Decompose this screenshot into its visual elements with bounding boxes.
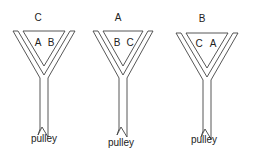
- inner-left-label: A: [35, 37, 42, 48]
- top-label: B: [199, 13, 206, 24]
- inner-right-label: C: [126, 37, 133, 48]
- inner-right-label: B: [48, 37, 55, 48]
- top-label: A: [115, 12, 122, 23]
- pulley-label: pulley: [31, 133, 57, 144]
- outer-funnel: [176, 33, 238, 139]
- figure-2: ABCpulley: [93, 12, 153, 148]
- pulley-label: pulley: [191, 134, 217, 145]
- pulley-label: pulley: [108, 137, 134, 148]
- inner-left-label: C: [195, 38, 202, 49]
- pulley-diagram: CABpulley ABCpulley BCApulley: [0, 0, 255, 154]
- outer-funnel: [13, 31, 75, 137]
- outer-funnel: [93, 31, 153, 137]
- figure-3: BCApulley: [176, 13, 238, 145]
- inner-left-label: B: [114, 37, 121, 48]
- diagram-svg: CABpulley ABCpulley BCApulley: [0, 0, 255, 154]
- inner-right-label: A: [210, 38, 217, 49]
- inner-triangle: [23, 31, 65, 66]
- top-label: C: [34, 12, 41, 23]
- figure-1: CABpulley: [13, 12, 75, 144]
- inner-triangle: [186, 33, 228, 68]
